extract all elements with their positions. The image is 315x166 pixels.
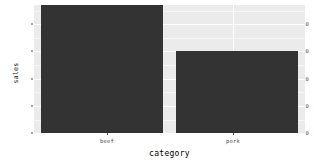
x-tick-label-pork: pork [226, 138, 240, 144]
x-tick-label-beef: beef [100, 138, 114, 144]
x-tick-mark-beef [107, 133, 108, 135]
plot-panel [34, 5, 305, 133]
bar-beef [41, 5, 163, 133]
y-tick-mark-20 [31, 78, 33, 79]
y-tick-mark-30 [31, 51, 33, 52]
y-axis-title: sales [12, 43, 20, 103]
bar-pork [176, 51, 298, 133]
y-tick-mark-10 [31, 105, 33, 106]
y-tick-label-0: 0 [305, 130, 309, 136]
y-tick-mark-0 [31, 133, 33, 134]
bar-chart: sales 0 10 20 30 40 beef pork category [0, 0, 315, 166]
y-tick-mark-40 [31, 24, 33, 25]
x-tick-mark-pork [233, 133, 234, 135]
x-axis-title: category [34, 149, 305, 158]
